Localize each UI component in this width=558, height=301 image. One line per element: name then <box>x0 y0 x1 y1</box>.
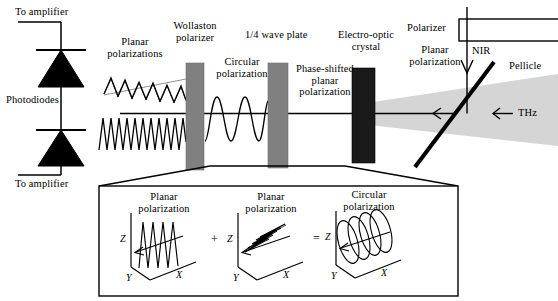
inset-panel-2-axis-x: X <box>283 269 289 280</box>
inset-panel-1-axis-x: X <box>176 269 182 280</box>
label-nir: NIR <box>472 45 490 57</box>
label-phase-shifted-planar-polarization: Phase-shifted planar polarization <box>289 63 361 98</box>
photodiode-upper-triangle <box>38 50 84 87</box>
inset-panel-3-axis-z: Z <box>325 231 331 242</box>
figure-canvas: To amplifier Photodiodes To amplifier Pl… <box>0 0 558 301</box>
label-thz: THz <box>518 107 537 119</box>
label-pellicle: Pellicle <box>509 60 541 72</box>
upper-planar-wave <box>104 78 186 103</box>
wollaston-polarizer-block <box>186 63 204 170</box>
inset-panel-1-axis-y: Y <box>126 272 132 283</box>
lower-planar-wave <box>99 118 186 150</box>
polarizer-box <box>459 19 558 41</box>
inset-panel-1-title: Planar polarization <box>124 191 204 214</box>
inset-operator-plus: + <box>211 232 218 247</box>
inset-connector-right <box>345 166 458 186</box>
inset-panel-2-title: Planar polarization <box>231 191 311 214</box>
inset-operator-equals: = <box>313 231 320 246</box>
inset-panel-1-axis-z: Z <box>120 233 126 244</box>
label-planar-polarization-nir: Planar polarization <box>400 44 470 67</box>
inset-panel-2-axis-y: Y <box>233 272 239 283</box>
label-circular-polarization: Circular polarization <box>206 56 278 79</box>
label-to-amplifier-top: To amplifier <box>15 6 68 18</box>
inset-connector-left <box>99 166 210 186</box>
label-photodiodes: Photodiodes <box>6 94 59 106</box>
inset-panel-3-axis-x: X <box>381 267 387 278</box>
inset-panel-3-axis-y: Y <box>331 270 337 281</box>
inset-panel-3-title: Circular polarization <box>329 189 409 212</box>
circular-polarization-wave <box>205 97 268 141</box>
label-wollaston-polarizer: Wollaston polarizer <box>159 20 231 43</box>
label-to-amplifier-bottom: To amplifier <box>15 178 68 190</box>
photodiode-lower-triangle <box>38 130 84 166</box>
label-electro-optic-crystal: Electro-optic crystal <box>330 29 402 52</box>
label-quarter-wave-plate: 1/4 wave plate <box>245 29 308 41</box>
label-polarizer: Polarizer <box>407 22 446 34</box>
inset-panel-2-axis-z: Z <box>227 233 233 244</box>
